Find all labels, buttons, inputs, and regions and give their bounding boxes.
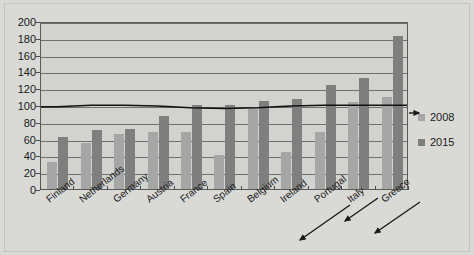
x-axis-tick-mark (73, 186, 74, 190)
bar-group (74, 23, 107, 189)
bar-2015 (393, 36, 403, 189)
bar-2015 (326, 85, 336, 189)
bar-2015 (292, 99, 302, 189)
bar-2008 (148, 132, 158, 189)
y-axis-tick-label: 140 (2, 67, 36, 78)
bar-2008 (315, 132, 325, 189)
bar-2015 (259, 101, 269, 189)
bar-2015 (225, 105, 235, 189)
bars-layer (41, 23, 407, 189)
x-axis-tick-mark (241, 186, 242, 190)
chart-container: 200180160140120100806040200 FinlandNethe… (0, 0, 474, 255)
bar-group (41, 23, 74, 189)
y-axis: 200180160140120100806040200 (0, 22, 36, 190)
bar-group (208, 23, 241, 189)
bar-group (309, 23, 342, 189)
x-axis-tick-mark (107, 186, 108, 190)
legend-item[interactable]: 2015 (418, 137, 468, 148)
x-axis-tick-mark (408, 186, 409, 190)
bar-2008 (47, 162, 57, 189)
bar-group (342, 23, 375, 189)
y-axis-tick-label: 40 (2, 151, 36, 162)
y-axis-tick-label: 20 (2, 168, 36, 179)
x-axis-tick-mark (308, 186, 309, 190)
y-axis-tick-label: 80 (2, 118, 36, 129)
y-axis-tick-label: 160 (2, 51, 36, 62)
x-axis-tick-mark (341, 186, 342, 190)
bar-2008 (382, 97, 392, 189)
y-axis-tick-label: 120 (2, 84, 36, 95)
x-axis-tick-mark (207, 186, 208, 190)
y-axis-tick-label: 100 (2, 101, 36, 112)
x-axis-tick-mark (174, 186, 175, 190)
bar-2008 (281, 152, 291, 189)
bar-2015 (359, 78, 369, 189)
bar-2008 (81, 143, 91, 189)
x-axis-tick-mark (140, 186, 141, 190)
bar-2008 (181, 132, 191, 189)
bar-2008 (214, 155, 224, 189)
bar-group (275, 23, 308, 189)
legend: 20082015 (418, 112, 468, 162)
legend-label: 2015 (430, 137, 454, 148)
x-axis-tick-mark (40, 186, 41, 190)
legend-label: 2008 (430, 112, 454, 123)
legend-swatch-icon (418, 139, 425, 146)
bar-group (175, 23, 208, 189)
bar-group (242, 23, 275, 189)
x-axis-tick-mark (274, 186, 275, 190)
bar-2008 (348, 102, 358, 189)
legend-item[interactable]: 2008 (418, 112, 468, 123)
bar-group (141, 23, 174, 189)
x-axis-tick-mark (375, 186, 376, 190)
x-axis: FinlandNetherlandsGermanyAustriaFranceSp… (40, 190, 408, 252)
y-axis-tick-label: 0 (2, 185, 36, 196)
y-axis-tick-label: 180 (2, 34, 36, 45)
plot-area (40, 22, 408, 190)
y-axis-tick-label: 200 (2, 17, 36, 28)
bar-group (376, 23, 409, 189)
bar-2015 (192, 105, 202, 189)
legend-swatch-icon (418, 114, 425, 121)
bar-2008 (248, 109, 258, 189)
bar-group (108, 23, 141, 189)
y-axis-tick-label: 60 (2, 135, 36, 146)
